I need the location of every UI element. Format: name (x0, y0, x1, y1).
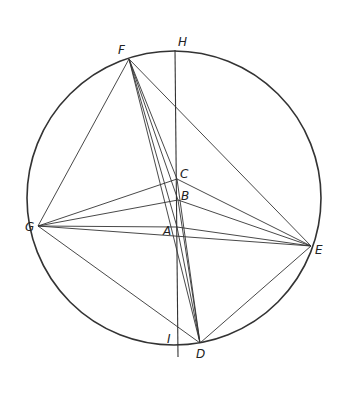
segment-FG (38, 59, 129, 226)
segment-GE (38, 226, 311, 246)
label-H: H (178, 35, 187, 49)
segment-GA (38, 226, 177, 227)
label-I: I (167, 332, 171, 346)
segment-FC (129, 59, 177, 179)
segment-FB (129, 59, 178, 200)
label-F: F (118, 43, 126, 57)
segment-FD (129, 59, 200, 343)
label-C: C (180, 167, 189, 181)
labels-group: F H C B A G E I D (25, 35, 323, 361)
segment-FE (129, 59, 311, 246)
segment-GD (38, 226, 200, 343)
segment-GC (38, 179, 177, 226)
segment-AD (177, 227, 200, 343)
segment-ED (200, 246, 311, 343)
segment-EA (177, 227, 311, 246)
label-B: B (181, 189, 189, 203)
segment-EC (177, 179, 311, 246)
label-D: D (196, 347, 205, 361)
label-A: A (162, 224, 171, 238)
circumcircle (27, 51, 321, 345)
segment-HI (175, 50, 178, 357)
segment-GB (38, 200, 178, 226)
segment-BD (178, 200, 200, 343)
label-E: E (315, 243, 323, 257)
geometry-diagram: F H C B A G E I D (0, 0, 348, 397)
segment-EB (178, 200, 311, 246)
label-G: G (25, 220, 34, 234)
